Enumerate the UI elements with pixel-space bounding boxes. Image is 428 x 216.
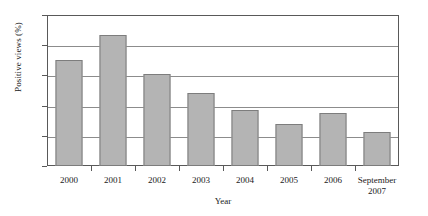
x-tick-label-line: 2006 <box>324 175 342 186</box>
x-tick-label-2005: 2005 <box>280 175 298 186</box>
y-tick-mark-0 <box>42 166 47 167</box>
x-tick-label-2006: 2006 <box>324 175 342 186</box>
bar[interactable] <box>188 93 215 166</box>
x-tick-mark <box>179 166 180 171</box>
x-tick-mark <box>135 166 136 171</box>
bar[interactable] <box>232 110 259 166</box>
x-tick-label-2003: 2003 <box>192 175 210 186</box>
bars-layer <box>47 15 399 166</box>
bar-slot <box>47 15 91 166</box>
x-tick-label-line: 2002 <box>148 175 166 186</box>
x-tick-label-2000: 2000 <box>60 175 78 186</box>
bar[interactable] <box>56 60 83 166</box>
x-tick-label-line: September <box>358 175 397 186</box>
bar-slot <box>135 15 179 166</box>
x-tick-label-2004: 2004 <box>236 175 254 186</box>
bar-slot <box>267 15 311 166</box>
bar[interactable] <box>364 132 391 166</box>
x-tick-label-line: 2001 <box>104 175 122 186</box>
bar-slot <box>91 15 135 166</box>
bar[interactable] <box>144 74 171 166</box>
x-tick-mark <box>267 166 268 171</box>
x-tick-mark <box>311 166 312 171</box>
x-tick-mark <box>355 166 356 171</box>
bar-slot <box>355 15 399 166</box>
x-tick-label-line: 2004 <box>236 175 254 186</box>
x-tick-label-september-2007: September2007 <box>358 175 397 197</box>
x-tick-label-line: 2000 <box>60 175 78 186</box>
x-tick-label-2001: 2001 <box>104 175 122 186</box>
x-tick-label-2002: 2002 <box>148 175 166 186</box>
x-tick-label-line: 2005 <box>280 175 298 186</box>
x-tick-mark <box>223 166 224 171</box>
x-tick-mark <box>91 166 92 171</box>
bar[interactable] <box>100 35 127 166</box>
bar-slot <box>223 15 267 166</box>
bar[interactable] <box>276 124 303 166</box>
y-axis-title: Positive views (%) <box>13 0 23 127</box>
x-tick-label-line: 2003 <box>192 175 210 186</box>
bar-chart-figure: Positive views (%) 020406080100 20002001… <box>0 0 428 216</box>
bar[interactable] <box>320 113 347 166</box>
bar-slot <box>179 15 223 166</box>
x-axis-title: Year <box>47 196 399 206</box>
bar-slot <box>311 15 355 166</box>
